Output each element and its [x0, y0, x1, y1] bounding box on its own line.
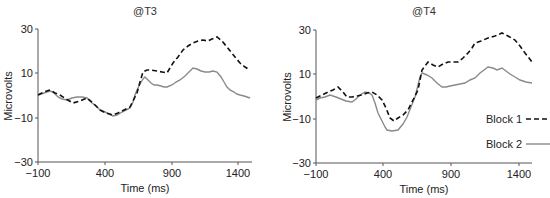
x-tick-label: 900 [163, 167, 181, 179]
x-axis-label: Time (ms) [399, 183, 448, 195]
x-tick-label: 1400 [507, 168, 531, 180]
legend-label-block1: Block 1 [486, 113, 522, 125]
x-tick-label: 400 [374, 168, 392, 180]
legend-label-block2: Block 2 [486, 138, 522, 150]
panel-t3: @T3 30 10 −10 −30 −100 400 900 1400 Time… [2, 5, 252, 194]
x-tick-label: 1400 [226, 167, 250, 179]
series-block1-line [316, 33, 532, 121]
y-tick-label: 30 [21, 23, 33, 35]
x-tick-label: 400 [96, 167, 114, 179]
y-tick-label: −10 [292, 113, 311, 125]
x-axis-label: Time (ms) [120, 182, 169, 194]
legend: Block 1 Block 2 [486, 113, 550, 150]
y-tick-label: −10 [14, 112, 33, 124]
panel-title: @T4 [412, 5, 436, 17]
x-tick-label: −100 [26, 167, 51, 179]
y-axis-label: Microvolts [281, 72, 293, 122]
x-tick-label: −100 [304, 168, 329, 180]
x-tick-label: 900 [442, 168, 460, 180]
y-tick-label: 10 [21, 67, 33, 79]
y-tick-label: 30 [299, 24, 311, 36]
panel-t4: @T4 30 10 −10 −30 −100 400 900 1400 Time… [281, 5, 550, 195]
y-axis-label: Microvolts [2, 71, 14, 121]
series-block1-line [38, 37, 250, 115]
series-block2-line [38, 68, 250, 116]
figure: @T3 30 10 −10 −30 −100 400 900 1400 Time… [0, 0, 550, 198]
y-tick-label: 10 [299, 68, 311, 80]
panel-title: @T3 [133, 5, 157, 17]
